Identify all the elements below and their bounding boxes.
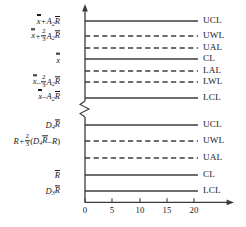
fraction-denominator: 3 (41, 36, 46, 44)
formula-cl-xbar: x (56, 54, 60, 65)
r-bar-glyph: R (55, 30, 60, 40)
plus-sign: + (35, 31, 41, 41)
x-axis-arrow-icon (227, 200, 234, 206)
formula-lcl-xbar: x–A2R (38, 90, 60, 102)
control-chart-limits-figure: x+A2R x+23A2R x x–23A2R x–A2R D4R R+23(D… (0, 0, 246, 227)
limit-label-uwl-xbar: UWL (203, 31, 224, 40)
r-bar-glyph: R (55, 91, 60, 101)
fraction-numerator: 2 (41, 28, 46, 35)
fraction-denominator: 3 (25, 141, 30, 149)
fraction-two-thirds: 23 (41, 74, 46, 89)
r-bar-glyph: R (55, 76, 60, 86)
r-bar-glyph: R (55, 119, 60, 129)
axis-break-icon (80, 101, 89, 117)
x-tick-label-10: 10 (129, 206, 151, 215)
formula-lcl-rbar: D3R (45, 185, 60, 196)
fraction-numerator: 2 (25, 133, 30, 140)
x-double-bar-glyph: x (37, 15, 41, 26)
formula-uwl-xbar: x+23A2R (31, 28, 60, 43)
x-double-bar-glyph: x (38, 90, 42, 101)
x-tick-label-15: 15 (156, 206, 178, 215)
x-tick-label-20: 20 (183, 206, 205, 215)
xbar-chart-limit-lines (85, 21, 198, 98)
x-double-bar-glyph: x (56, 54, 60, 65)
limit-label-lal-xbar: LAL (203, 66, 221, 75)
limit-label-uwl-rbar: UWL (203, 136, 224, 145)
limit-label-ucl-rbar: UCL (203, 120, 222, 129)
plus-sign: + (19, 136, 25, 146)
x-tick-label-0: 0 (74, 206, 96, 215)
minus-sign: – (37, 77, 41, 87)
limit-label-lcl-xbar: LCL (203, 93, 221, 102)
fraction-two-thirds: 23 (41, 28, 46, 43)
fraction-numerator: 2 (41, 74, 46, 81)
formula-ucl-xbar: x+A2R (37, 15, 60, 27)
limit-label-cl-rbar: CL (203, 170, 215, 179)
rbar-chart-limit-lines (85, 125, 198, 191)
x-double-bar-glyph: x (31, 29, 35, 40)
formula-lwl-xbar: x–23A2R (33, 74, 60, 89)
formula-ucl-rbar: D4R (45, 119, 60, 130)
limit-label-lcl-rbar: LCL (203, 186, 221, 195)
formula-uwl-rbar: R+23(D4R–R) (14, 133, 60, 148)
r-bar-glyph: R (55, 16, 60, 26)
y-axis-arrow-icon (82, 4, 88, 11)
r-bar-glyph: R (55, 170, 60, 180)
limit-label-ual-rbar: UAL (203, 153, 222, 162)
paren-close: ) (57, 136, 60, 146)
limit-label-cl-xbar: CL (203, 54, 215, 63)
r-bar-glyph: R (55, 185, 60, 195)
limit-label-lwl-xbar: LWL (203, 77, 223, 86)
x-tick-label-5: 5 (101, 206, 123, 215)
x-double-bar-glyph: x (33, 75, 37, 86)
limit-label-ucl-xbar: UCL (203, 16, 222, 25)
fraction-two-thirds: 23 (25, 133, 30, 148)
limit-label-ual-xbar: UAL (203, 43, 222, 52)
formula-cl-rbar: R (55, 170, 60, 180)
